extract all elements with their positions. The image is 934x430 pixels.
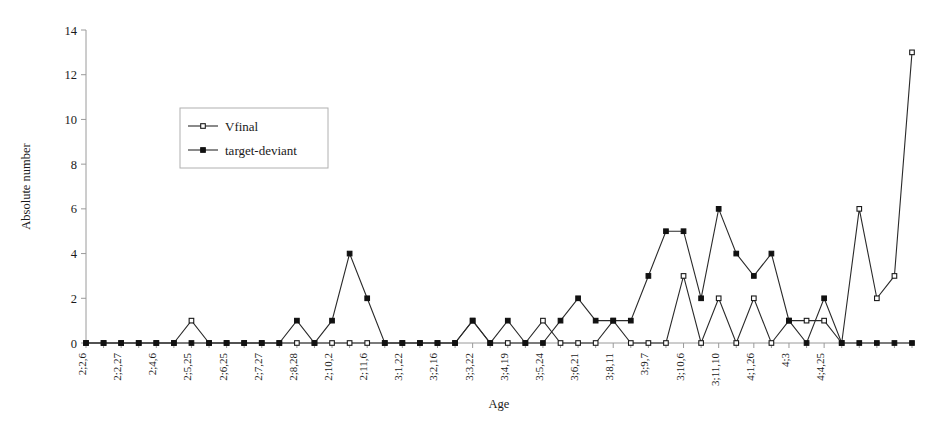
data-point-marker — [593, 318, 598, 323]
data-point-marker — [207, 341, 212, 346]
data-point-marker — [716, 207, 721, 212]
data-point-marker — [875, 341, 880, 346]
data-point-marker — [541, 341, 546, 346]
x-axis-tick-label: 3;3,22 — [463, 353, 475, 381]
x-axis-tick-label: 3;6,21 — [568, 353, 580, 381]
data-point-marker — [892, 274, 897, 279]
data-point-marker — [875, 296, 880, 301]
data-point-marker — [558, 318, 563, 323]
legend-sample-marker — [201, 124, 206, 129]
x-axis-tick-label: 2;2,6 — [76, 353, 88, 376]
data-point-marker — [470, 318, 475, 323]
data-point-marker — [365, 341, 370, 346]
data-point-marker — [787, 318, 792, 323]
data-point-marker — [505, 318, 510, 323]
data-point-marker — [242, 341, 247, 346]
data-point-marker — [910, 341, 915, 346]
data-point-marker — [857, 341, 862, 346]
y-axis-tick-label: 10 — [65, 113, 78, 127]
data-point-marker — [224, 341, 229, 346]
x-axis-tick-label: 4;3 — [779, 353, 791, 368]
data-point-marker — [523, 341, 528, 346]
data-point-marker — [435, 341, 440, 346]
data-point-marker — [822, 296, 827, 301]
x-axis-tick-label: 4;4,25 — [814, 353, 826, 381]
data-point-marker — [734, 251, 739, 256]
data-point-marker — [664, 229, 669, 234]
chart-svg: 02468101214Absolute number2;2,62;2,272;4… — [0, 0, 934, 430]
data-point-marker — [295, 341, 300, 346]
data-point-marker — [716, 296, 721, 301]
data-point-marker — [629, 318, 634, 323]
x-axis-tick-label: 2;6,25 — [217, 353, 229, 381]
data-point-marker — [365, 296, 370, 301]
x-axis-tick-label: 3;1,22 — [392, 353, 404, 381]
data-point-marker — [699, 296, 704, 301]
data-point-marker — [295, 318, 300, 323]
x-axis-tick-label: 3;10,6 — [674, 353, 686, 381]
data-point-marker — [277, 341, 282, 346]
data-point-marker — [382, 341, 387, 346]
data-point-marker — [541, 318, 546, 323]
data-point-marker — [189, 341, 194, 346]
data-point-marker — [259, 341, 264, 346]
data-point-marker — [418, 341, 423, 346]
chart-container: 02468101214Absolute number2;2,62;2,272;4… — [0, 0, 934, 430]
y-axis-tick-label: 14 — [65, 24, 78, 38]
data-point-marker — [453, 341, 458, 346]
data-point-marker — [752, 296, 757, 301]
data-point-marker — [752, 274, 757, 279]
x-axis-tick-label: 3;8,11 — [603, 353, 615, 380]
legend-box — [180, 108, 328, 168]
x-axis-tick-label: 2;8,28 — [287, 353, 299, 381]
x-axis-tick-label: 2;4,6 — [146, 353, 158, 376]
y-axis-tick-label: 12 — [65, 68, 78, 82]
data-point-marker — [576, 341, 581, 346]
y-axis-tick-label: 4 — [71, 247, 78, 261]
x-axis-tick-label: 3;4,19 — [498, 353, 510, 381]
data-point-marker — [558, 341, 563, 346]
data-point-marker — [347, 251, 352, 256]
y-axis-tick-label: 0 — [71, 337, 77, 351]
x-axis-tick-label: 2;5,25 — [181, 353, 193, 381]
data-point-marker — [681, 229, 686, 234]
data-point-marker — [839, 341, 844, 346]
data-point-marker — [822, 318, 827, 323]
data-point-marker — [505, 341, 510, 346]
x-axis-tick-label: 3;5,24 — [533, 353, 545, 381]
data-point-marker — [611, 318, 616, 323]
data-point-marker — [699, 341, 704, 346]
y-axis-tick-label: 8 — [71, 158, 77, 172]
data-point-marker — [804, 341, 809, 346]
data-point-marker — [576, 296, 581, 301]
data-point-marker — [119, 341, 124, 346]
x-axis-tick-label: 2;2,27 — [111, 353, 123, 381]
data-point-marker — [330, 318, 335, 323]
data-point-marker — [681, 274, 686, 279]
data-point-marker — [189, 318, 194, 323]
legend-label: Vfinal — [225, 119, 259, 134]
legend-label: target-deviant — [225, 143, 297, 158]
x-axis-tick-label: 3;2,16 — [427, 353, 439, 381]
data-point-marker — [312, 341, 317, 346]
y-axis-tick-label: 2 — [71, 292, 77, 306]
x-axis-tick-label: 2;7,27 — [252, 353, 264, 381]
x-axis-tick-label: 3;11,10 — [709, 353, 721, 386]
data-point-marker — [347, 341, 352, 346]
data-point-marker — [101, 341, 106, 346]
data-point-marker — [910, 50, 915, 55]
data-point-marker — [804, 318, 809, 323]
data-point-marker — [172, 341, 177, 346]
data-point-marker — [646, 274, 651, 279]
data-point-marker — [646, 341, 651, 346]
data-point-marker — [857, 207, 862, 212]
x-axis-tick-label: 4;1,26 — [744, 353, 756, 381]
y-axis-tick-label: 6 — [71, 202, 77, 216]
data-point-marker — [734, 341, 739, 346]
data-point-marker — [892, 341, 897, 346]
data-point-marker — [769, 251, 774, 256]
data-point-marker — [629, 341, 634, 346]
data-point-marker — [400, 341, 405, 346]
x-axis-tick-label: 2;11,6 — [357, 353, 369, 381]
data-point-marker — [154, 341, 159, 346]
